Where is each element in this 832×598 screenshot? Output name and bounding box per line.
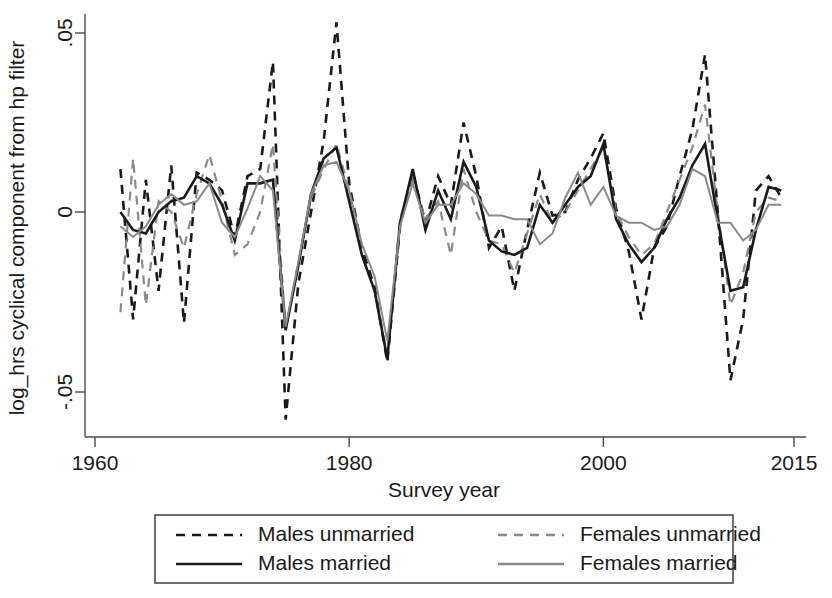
chart-figure: .050-.05 log_hrs cyclical component from… [0,0,832,598]
y-tick-label: -.05 [53,374,76,410]
x-tick-label: 2000 [580,451,627,474]
chart-canvas: .050-.05 log_hrs cyclical component from… [0,0,832,598]
x-tick-label: 1980 [326,451,373,474]
x-tick-label: 2015 [771,451,818,474]
y-tick-label: .05 [53,18,76,47]
y-axis-ticks: .050-.05 [53,18,85,410]
chart-legend: Males unmarriedFemales unmarriedMales ma… [155,515,761,583]
legend-label: Males married [258,551,391,574]
legend-label: Females unmarried [580,522,761,545]
data-series-group [120,22,781,419]
x-tick-label: 1960 [72,451,119,474]
legend-label: Males unmarried [258,522,414,545]
series-line-females-unmarried [120,105,781,356]
x-axis-ticks: 1960198020002015 [72,437,818,474]
x-axis-title: Survey year [388,478,500,501]
legend-label: Females married [580,551,738,574]
y-axis-title: log_hrs cyclical component from hp filte… [5,41,29,416]
y-tick-label: 0 [53,206,76,218]
